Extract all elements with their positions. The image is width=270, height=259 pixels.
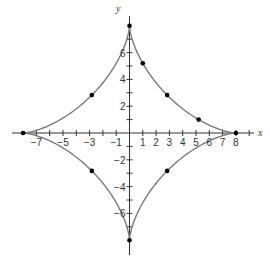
y-tick-label: −2 xyxy=(114,155,126,166)
data-point xyxy=(127,238,132,243)
data-point xyxy=(90,93,95,98)
data-point xyxy=(165,93,170,98)
y-tick-label: −4 xyxy=(114,182,126,193)
data-point xyxy=(21,131,26,136)
x-axis-label: x xyxy=(257,127,263,138)
x-tick-label: 1 xyxy=(140,137,146,148)
y-axis-label: y xyxy=(115,3,121,14)
y-tick-label: 6 xyxy=(120,48,126,59)
x-tick-label: −7 xyxy=(31,137,43,148)
data-point xyxy=(196,117,201,122)
x-tick-label: 5 xyxy=(193,137,199,148)
data-point xyxy=(165,169,170,174)
x-tick-label: 6 xyxy=(207,137,213,148)
x-tick-label: 8 xyxy=(233,137,239,148)
data-point xyxy=(90,169,95,174)
x-tick-label: 2 xyxy=(153,137,159,148)
data-point xyxy=(234,131,239,136)
y-tick-label: −6 xyxy=(114,208,126,219)
y-tick-label: 4 xyxy=(120,74,126,85)
x-tick-label: 3 xyxy=(167,137,173,148)
x-tick-label: −1 xyxy=(110,137,122,148)
data-point xyxy=(141,61,146,66)
data-point xyxy=(127,24,132,29)
x-tick-label: −3 xyxy=(84,137,96,148)
x-tick-label: 7 xyxy=(220,137,226,148)
astroid-plot: −7−5−3−112345678642−2−4−6 x y xyxy=(0,0,270,259)
y-tick-label: 2 xyxy=(120,101,126,112)
x-tick-label: 4 xyxy=(180,137,186,148)
axes xyxy=(12,16,254,255)
x-tick-label: −5 xyxy=(57,137,69,148)
